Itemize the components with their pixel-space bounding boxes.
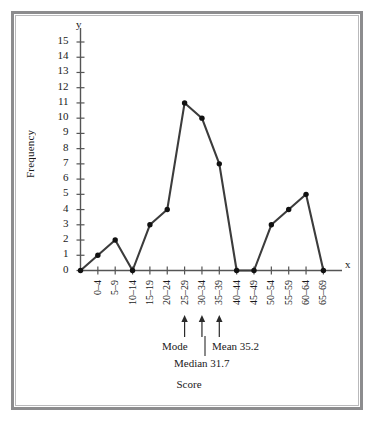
y-tick-label: 14 <box>53 49 69 61</box>
data-point-marker <box>217 161 222 166</box>
x-tick-label: 20–24 <box>161 280 172 305</box>
y-tick-label: 2 <box>53 232 69 244</box>
y-tick-label: 3 <box>53 217 69 229</box>
y-tick-label: 8 <box>53 141 69 153</box>
axis-group <box>81 28 343 271</box>
annotation-median: Median 31.7 <box>174 357 230 369</box>
annotation-mode: Mode <box>162 340 188 352</box>
x-axis-title: Score <box>0 378 378 390</box>
data-point-marker <box>78 268 83 273</box>
data-point-marker <box>130 268 135 273</box>
x-tick-label: 60–64 <box>300 280 311 305</box>
data-point-marker <box>182 100 187 105</box>
x-tick-label: 65–69 <box>317 280 328 305</box>
x-tick-label: 15–19 <box>144 280 155 305</box>
data-marker-group <box>78 100 326 273</box>
data-point-marker <box>234 268 239 273</box>
x-tick-label: 5–9 <box>109 280 120 295</box>
frequency-polyline <box>81 103 324 271</box>
x-tick-label: 35–39 <box>213 280 224 305</box>
x-tick-label: 30–34 <box>196 280 207 305</box>
data-point-marker <box>113 237 118 242</box>
data-point-marker <box>199 115 204 120</box>
y-tick-label: 6 <box>53 171 69 183</box>
data-point-marker <box>95 253 100 258</box>
y-tick-label: 7 <box>53 156 69 168</box>
x-tick-label: 55–59 <box>283 280 294 305</box>
y-tick-label: 10 <box>53 110 69 122</box>
y-tick-label: 15 <box>53 34 69 46</box>
figure-container: Frequency y x 0123456789101112131415 0–4… <box>0 0 378 424</box>
y-tick-label: 9 <box>53 125 69 137</box>
annotation-mean: Mean 35.2 <box>212 340 259 352</box>
data-point-marker <box>321 268 326 273</box>
data-series-group <box>81 103 324 271</box>
annotation-arrow-head <box>199 315 205 322</box>
x-tick-label: 45–49 <box>248 280 259 305</box>
x-tick-label: 50–54 <box>265 280 276 305</box>
x-tick-label: 25–29 <box>179 280 190 305</box>
y-tick-label: 5 <box>53 186 69 198</box>
data-point-marker <box>303 192 308 197</box>
y-tick-label: 11 <box>53 95 69 107</box>
y-tick-label: 13 <box>53 64 69 76</box>
y-tick-label: 1 <box>53 247 69 259</box>
annotation-arrow-group <box>181 315 222 337</box>
annotation-arrow-head <box>216 315 222 322</box>
annotation-arrow-head <box>181 315 187 322</box>
y-tick-label: 4 <box>53 202 69 214</box>
data-point-marker <box>269 222 274 227</box>
data-point-marker <box>286 207 291 212</box>
data-point-marker <box>147 222 152 227</box>
x-tick-label: 10–14 <box>127 280 138 305</box>
data-point-marker <box>165 207 170 212</box>
data-point-marker <box>251 268 256 273</box>
x-tick-label: 0–4 <box>92 280 103 295</box>
y-tick-label: 0 <box>53 263 69 275</box>
y-tick-label: 12 <box>53 80 69 92</box>
x-tick-label: 40–44 <box>231 280 242 305</box>
